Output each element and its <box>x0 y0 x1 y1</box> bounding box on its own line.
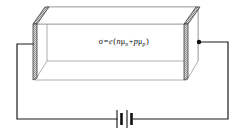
left-electrode-body <box>33 24 37 80</box>
block-front-face <box>35 24 187 80</box>
right-terminal-dot <box>197 40 201 44</box>
right-electrode-body <box>184 24 188 80</box>
figure-canvas <box>0 0 245 131</box>
semiconductor-circuit-figure: σ=e(nμn+pμp) <box>0 0 245 131</box>
battery <box>117 110 132 128</box>
semiconductor-block <box>35 7 198 80</box>
block-top-face <box>35 7 198 24</box>
